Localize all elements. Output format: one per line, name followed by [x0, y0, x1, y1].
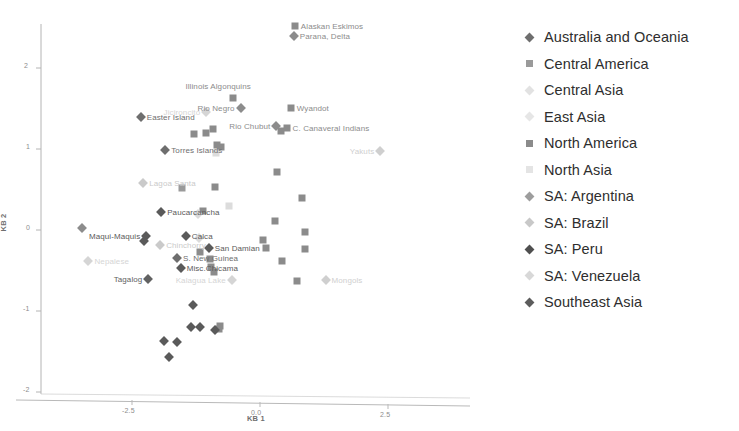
legend-item-label: North Asia: [538, 162, 612, 178]
point-label: Chinchorry: [166, 240, 206, 249]
data-point-marker: [287, 104, 294, 111]
y-tick-marks: [36, 68, 41, 392]
point-label: Illinois Algonquins: [185, 81, 251, 90]
legend-item-label: Southeast Asia: [538, 294, 642, 310]
diamond-marker-icon: [520, 246, 538, 253]
y-tick-label-neg1: -1: [23, 305, 30, 312]
point-label: Paucarcancha: [167, 208, 219, 217]
data-point-marker: [230, 94, 237, 101]
data-point-marker: [263, 244, 270, 251]
point-label: Torres Islands: [171, 145, 222, 154]
point-label: Kalagua Lake: [176, 276, 226, 285]
data-point-marker: [302, 228, 309, 235]
data-point-marker: [226, 202, 233, 209]
data-point-marker: [277, 128, 284, 135]
diamond-marker-icon: [520, 299, 538, 306]
data-point-marker: [211, 184, 218, 191]
legend-item-australia-and-oceania[interactable]: Australia and Oceania: [520, 24, 735, 51]
data-point-marker: [299, 194, 306, 201]
square-marker-icon: [520, 166, 538, 173]
data-point-marker: [209, 125, 216, 132]
legend-item-north-america[interactable]: North America: [520, 130, 735, 157]
scatter-plot-figure: 2 1 0 -1 -2 -2.5 0.0 2.5 KB 1 KB 2 Easte…: [0, 0, 739, 431]
legend-item-label: SA: Argentina: [538, 188, 634, 204]
plot-frame-bottom: [41, 394, 470, 398]
point-label: Calca: [192, 231, 213, 240]
legend-item-label: East Asia: [538, 109, 605, 125]
legend-item-label: SA: Brazil: [538, 215, 609, 231]
data-point-marker: [272, 218, 279, 225]
point-label: Maqui-Maquis: [89, 232, 140, 241]
diamond-marker-icon: [520, 87, 538, 94]
legend-item-east-asia[interactable]: East Asia: [520, 104, 735, 131]
point-label: C. Canaveral Indians: [293, 123, 370, 132]
diamond-marker-icon: [520, 113, 538, 120]
y-tick-label-1: 1: [26, 143, 30, 150]
legend-item-southeast-asia[interactable]: Southeast Asia: [520, 289, 735, 316]
legend-item-central-asia[interactable]: Central Asia: [520, 77, 735, 104]
data-point-marker: [278, 257, 285, 264]
point-label: Nepalese: [94, 256, 129, 265]
legend-item-label: Australia and Oceania: [538, 29, 689, 45]
legend-item-label: North America: [538, 135, 637, 151]
data-point-marker: [191, 130, 198, 137]
plot-area: 2 1 0 -1 -2 -2.5 0.0 2.5 KB 1 KB 2 Easte…: [0, 0, 500, 431]
point-label: Misc.Chicama: [187, 264, 238, 273]
point-label: Tagalog: [114, 275, 143, 284]
legend-item-label: SA: Venezuela: [538, 268, 640, 284]
point-label: Rio Negro: [198, 103, 235, 112]
legend-item-sa-brazil[interactable]: SA: Brazil: [520, 210, 735, 237]
y-tick-label-2: 2: [24, 62, 28, 69]
point-label: Alaskan Eskimos: [301, 21, 363, 30]
diamond-marker-icon: [520, 219, 538, 226]
point-label: Parana, Delta: [300, 31, 350, 40]
data-point-marker: [291, 22, 298, 29]
data-point-marker: [273, 168, 280, 175]
legend-item-sa-argentina[interactable]: SA: Argentina: [520, 183, 735, 210]
y-tick-label-neg2: -2: [23, 386, 30, 393]
legend-item-sa-venezuela[interactable]: SA: Venezuela: [520, 263, 735, 290]
diamond-marker-icon: [520, 193, 538, 200]
x-axis-title: KB 1: [247, 414, 265, 423]
diamond-marker-icon: [520, 34, 538, 41]
legend-item-label: SA: Peru: [538, 241, 603, 257]
x-axis-line: [16, 400, 470, 406]
data-point-marker: [302, 246, 309, 253]
data-point-marker: [259, 236, 266, 243]
data-point-marker: [293, 278, 300, 285]
legend-item-north-asia[interactable]: North Asia: [520, 157, 735, 184]
point-label: Mongols: [332, 276, 363, 285]
x-tick-label-neg2p5: -2.5: [122, 407, 135, 414]
y-axis-title: KB 2: [0, 214, 8, 232]
legend-item-label: Central Asia: [538, 82, 623, 98]
point-label: San Damian: [215, 243, 260, 252]
square-marker-icon: [520, 140, 538, 147]
point-label: Lagoa Santa: [149, 179, 195, 188]
point-label: Rio Chubut: [229, 122, 270, 131]
diamond-marker-icon: [520, 272, 538, 279]
point-label: S. New Guinea: [183, 253, 238, 262]
x-tick-label-2p5: 2.5: [380, 411, 390, 418]
legend-item-label: Central America: [538, 56, 649, 72]
point-label: Wyandot: [297, 103, 329, 112]
legend: Australia and OceaniaCentral AmericaCent…: [520, 24, 735, 316]
legend-item-central-america[interactable]: Central America: [520, 51, 735, 78]
square-marker-icon: [520, 60, 538, 67]
axes-layer: [0, 0, 500, 431]
legend-item-sa-peru[interactable]: SA: Peru: [520, 236, 735, 263]
y-tick-label-0: 0: [26, 224, 30, 231]
point-label: Yakuts: [350, 146, 374, 155]
point-label: Jicironcito: [164, 107, 201, 116]
